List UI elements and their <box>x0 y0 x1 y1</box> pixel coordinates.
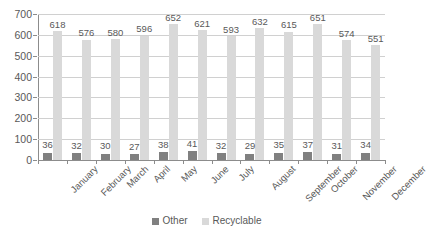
x-axis-tick-label: January <box>69 164 100 195</box>
bar-recyclable <box>53 31 62 160</box>
bar-value-label: 593 <box>223 25 239 35</box>
bar-group: 65238 <box>154 14 183 160</box>
y-axis-tick-mark <box>33 139 37 140</box>
bar-recyclable <box>227 36 236 160</box>
y-axis-tick-label: 200 <box>14 113 32 124</box>
bar-value-label: 27 <box>129 142 140 152</box>
bar-value-label: 596 <box>136 24 152 34</box>
bar-recyclable <box>313 24 322 160</box>
bar-group: 59332 <box>212 14 241 160</box>
bar-other <box>72 153 81 160</box>
legend-label: Recyclable <box>213 216 262 226</box>
plot-area: 6183657632580305962765238621415933263229… <box>38 14 385 160</box>
bar-value-label: 652 <box>165 13 181 23</box>
bar-other <box>217 153 226 160</box>
bar-recyclable <box>284 32 293 160</box>
bar-group: 57431 <box>327 14 356 160</box>
bar-group: 61836 <box>38 14 67 160</box>
bar-value-label: 31 <box>331 141 342 151</box>
chart-legend: OtherRecyclable <box>0 216 413 226</box>
bar-other <box>43 153 52 161</box>
bar-value-label: 551 <box>368 34 384 44</box>
bar-value-label: 618 <box>50 20 66 30</box>
bar-group: 57632 <box>67 14 96 160</box>
bar-recyclable <box>255 28 264 160</box>
y-axis-tick-mark <box>33 77 37 78</box>
bar-other <box>188 151 197 160</box>
bar-value-label: 574 <box>339 29 355 39</box>
bar-other <box>303 152 312 160</box>
x-axis-tick-label: May <box>180 164 199 183</box>
x-axis-tick-label: August <box>270 164 298 192</box>
bar-group: 65137 <box>298 14 327 160</box>
legend-swatch-icon <box>152 218 159 225</box>
bar-recyclable <box>140 36 149 160</box>
bar-recyclable <box>169 24 178 160</box>
bar-value-label: 32 <box>216 141 227 151</box>
bar-value-label: 580 <box>107 28 123 38</box>
y-axis-tick-mark <box>33 56 37 57</box>
legend-item[interactable]: Recyclable <box>202 216 262 226</box>
x-axis-tick-mark <box>385 160 386 164</box>
bar-recyclable <box>82 40 91 160</box>
y-axis-tick-label: 0 <box>26 155 32 166</box>
bar-value-label: 38 <box>158 140 169 150</box>
y-axis-labels: 0100200300400500600700 <box>0 14 32 160</box>
x-axis-labels: JanuaryFebruaryMarchAprilMayJuneJulyAugu… <box>38 164 385 210</box>
bar-value-label: 37 <box>303 140 314 150</box>
bar-value-label: 32 <box>71 141 82 151</box>
legend-swatch-icon <box>202 218 209 225</box>
y-axis-tick-mark <box>33 160 37 161</box>
x-axis-tick-label: April <box>151 164 171 184</box>
legend-item[interactable]: Other <box>152 216 188 226</box>
x-axis-tick-label: July <box>237 164 256 183</box>
bar-recyclable <box>371 45 380 160</box>
y-axis-tick-label: 300 <box>14 92 32 103</box>
bar-value-label: 632 <box>252 17 268 27</box>
bar-groups: 6183657632580305962765238621415933263229… <box>38 14 385 160</box>
bar-value-label: 35 <box>274 140 285 150</box>
bar-recyclable <box>342 40 351 160</box>
bar-other <box>159 152 168 160</box>
y-axis-tick-mark <box>33 35 37 36</box>
bar-recyclable <box>111 39 120 160</box>
y-axis-tick-label: 500 <box>14 50 32 61</box>
y-axis-tick-mark <box>33 97 37 98</box>
y-axis-tick-mark <box>33 14 37 15</box>
bar-value-label: 30 <box>100 141 111 151</box>
bar-value-label: 34 <box>360 140 371 150</box>
bar-group: 62141 <box>183 14 212 160</box>
y-axis-tick-label: 100 <box>14 134 32 145</box>
bar-value-label: 41 <box>187 139 198 149</box>
legend-label: Other <box>163 216 188 226</box>
bar-other <box>274 153 283 160</box>
x-axis-tick-label: June <box>209 164 230 185</box>
bar-group: 63229 <box>240 14 269 160</box>
y-axis-tick-label: 700 <box>14 9 32 20</box>
bar-group: 58030 <box>96 14 125 160</box>
bar-value-label: 29 <box>245 141 256 151</box>
y-axis-tick-mark <box>33 118 37 119</box>
bar-value-label: 36 <box>42 140 53 150</box>
bar-group: 55134 <box>356 14 385 160</box>
bar-value-label: 615 <box>281 20 297 30</box>
bar-value-label: 621 <box>194 19 210 29</box>
bar-value-label: 576 <box>78 28 94 38</box>
bar-group: 59627 <box>125 14 154 160</box>
bar-recyclable <box>198 30 207 160</box>
bar-group: 61535 <box>269 14 298 160</box>
y-axis-tick-label: 400 <box>14 71 32 82</box>
bar-value-label: 651 <box>310 13 326 23</box>
y-axis-tick-label: 600 <box>14 30 32 41</box>
bar-other <box>361 153 370 160</box>
